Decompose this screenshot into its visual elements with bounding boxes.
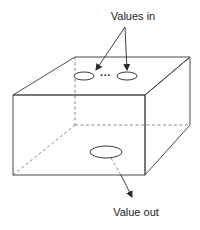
output-arrow	[121, 175, 132, 197]
output-arrow-hidden-segment	[111, 158, 121, 175]
output-hole	[90, 146, 122, 158]
values-in-label: Values in	[111, 10, 155, 22]
input-arrow-left	[96, 27, 125, 70]
front-face	[13, 95, 145, 175]
value-out-label: Value out	[113, 206, 159, 218]
hidden-bottom-left-depth-edge	[13, 125, 75, 175]
ellipsis-dots: ···	[100, 69, 111, 81]
input-arrow-right	[125, 27, 127, 70]
input-hole-last	[117, 72, 137, 80]
cube-diagram: ··· Values in Value out	[0, 0, 200, 230]
right-face	[145, 57, 190, 175]
input-hole-first	[74, 72, 94, 80]
